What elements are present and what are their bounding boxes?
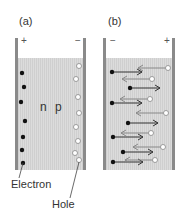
hole-circle xyxy=(153,158,158,163)
electrode-left-a xyxy=(15,38,18,170)
panel-a-left-sign: + xyxy=(21,36,27,46)
hole-circle xyxy=(164,111,169,116)
hole-circle xyxy=(77,111,82,116)
electron-dot xyxy=(20,71,24,75)
hole-circle xyxy=(76,95,81,100)
region-label-n: n xyxy=(40,100,47,114)
hole-circle xyxy=(161,145,166,150)
electrode-left-b xyxy=(103,38,106,170)
hole-circle xyxy=(73,151,78,156)
hole-circle xyxy=(150,77,155,82)
electron-dot xyxy=(111,160,115,164)
electron-dot xyxy=(20,148,24,152)
electron-dot xyxy=(110,70,114,74)
electron-dot xyxy=(23,119,27,123)
electron-annotation: Electron xyxy=(11,178,51,190)
panel-b-right-sign: + xyxy=(164,36,170,46)
electron-dot xyxy=(128,86,132,90)
electrode-right-b xyxy=(172,38,175,170)
electron-dot xyxy=(111,135,115,139)
hole-circle xyxy=(74,77,79,82)
hole-circle xyxy=(76,139,81,144)
hole-circle xyxy=(149,131,154,136)
panel-a-label: (a) xyxy=(19,15,32,27)
panel-a xyxy=(15,38,86,198)
electron-dot xyxy=(126,121,130,125)
region-label-p: p xyxy=(55,100,62,114)
hole-circle xyxy=(148,97,153,102)
hole-circle xyxy=(77,158,82,163)
electrode-right-a xyxy=(83,38,86,170)
hole-circle xyxy=(74,125,79,130)
hole-circle xyxy=(166,66,171,71)
electron-dot xyxy=(19,100,23,104)
panel-b-left-sign: − xyxy=(110,36,116,46)
panel-a-right-sign: − xyxy=(75,36,81,46)
hole-annotation: Hole xyxy=(52,198,75,210)
electron-dot xyxy=(110,101,114,105)
panel-b-label: (b) xyxy=(108,15,121,27)
electron-dot xyxy=(21,135,25,139)
electron-dot xyxy=(22,85,26,89)
hole-circle xyxy=(77,64,82,69)
panel-b xyxy=(103,38,175,170)
electron-dot xyxy=(121,150,125,154)
